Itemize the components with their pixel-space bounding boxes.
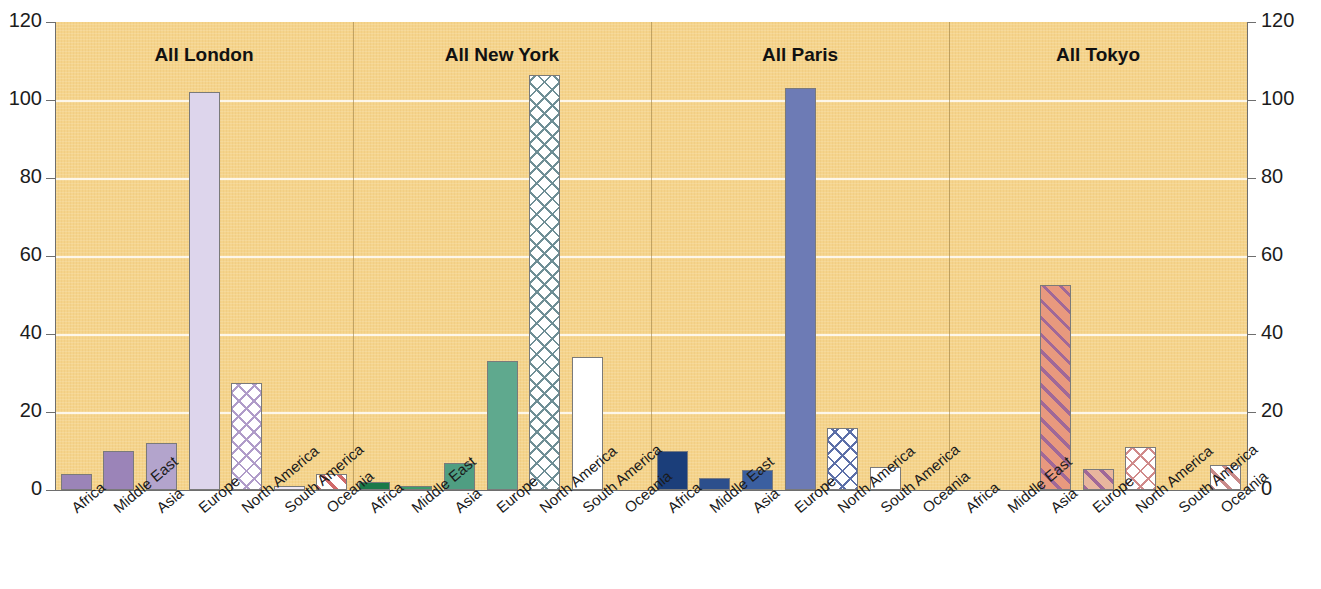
y-tick-right [1247,334,1256,335]
y-tick-label-right: 20 [1261,399,1283,422]
y-tick-left [46,100,55,101]
chart-root: 002020404060608080100100120120 All Londo… [0,0,1321,589]
panel-separator [353,22,354,490]
bar [487,361,518,490]
y-tick-label-right: 60 [1261,243,1283,266]
bar [785,88,816,490]
bar [231,383,262,490]
y-tick-label-left: 120 [9,9,42,32]
y-axis-left [55,22,56,491]
y-tick-right [1247,256,1256,257]
y-tick-right [1247,412,1256,413]
y-tick-label-left: 0 [31,477,42,500]
y-tick-left [46,490,55,491]
panel-separator [949,22,950,490]
y-tick-label-left: 20 [20,399,42,422]
panel-title: All New York [353,44,651,66]
y-tick-label-left: 60 [20,243,42,266]
panel-separator [651,22,652,490]
y-tick-label-left: 40 [20,321,42,344]
bar [529,75,560,490]
panel-title: All Paris [651,44,949,66]
y-tick-label-left: 80 [20,165,42,188]
y-tick-left [46,22,55,23]
y-tick-right [1247,22,1256,23]
y-tick-label-right: 80 [1261,165,1283,188]
y-tick-left [46,412,55,413]
y-tick-left [46,178,55,179]
panel-title: All London [55,44,353,66]
y-tick-label-right: 120 [1261,9,1294,32]
bar [103,451,134,490]
bar [189,92,220,490]
y-tick-left [46,256,55,257]
y-tick-left [46,334,55,335]
y-tick-label-right: 40 [1261,321,1283,344]
panel-title: All Tokyo [949,44,1247,66]
y-tick-label-left: 100 [9,87,42,110]
y-tick-right [1247,100,1256,101]
y-tick-right [1247,178,1256,179]
y-tick-label-right: 100 [1261,87,1294,110]
